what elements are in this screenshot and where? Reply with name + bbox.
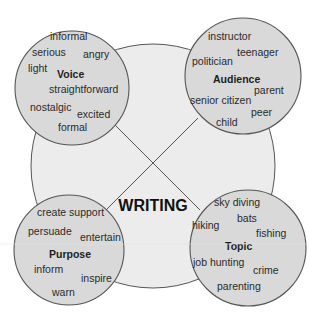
- node-voice: informal serious angry light Voice strai…: [15, 30, 129, 145]
- topic-word: hiking: [192, 219, 220, 231]
- node-purpose: create support persuade entertain Purpos…: [14, 195, 124, 305]
- center-title: WRITING: [118, 197, 187, 214]
- audience-word: teenager: [237, 46, 279, 58]
- writing-diagram: informal serious angry light Voice strai…: [0, 0, 309, 320]
- topic-word: fishing: [256, 227, 287, 239]
- audience-word: politician: [192, 55, 233, 67]
- voice-title: Voice: [57, 68, 84, 80]
- topic-word: job hunting: [192, 256, 245, 268]
- audience-word: child: [216, 116, 238, 128]
- voice-word: excited: [77, 108, 110, 120]
- audience-word: senior citizen: [190, 94, 251, 106]
- audience-word: instructor: [208, 30, 252, 42]
- topic-title: Topic: [225, 240, 252, 252]
- voice-word: straightforward: [49, 83, 119, 95]
- node-topic: sky diving bats hiking fishing Topic job…: [190, 190, 306, 306]
- purpose-title: Purpose: [49, 248, 91, 260]
- purpose-word: create support: [37, 206, 104, 218]
- node-audience: instructor teenager politician Audience …: [185, 18, 301, 134]
- topic-word: sky diving: [214, 196, 260, 208]
- topic-word: parenting: [217, 280, 261, 292]
- voice-word: nostalgic: [30, 101, 71, 113]
- purpose-word: warn: [51, 286, 75, 298]
- voice-word: serious: [32, 46, 66, 58]
- purpose-word: persuade: [28, 225, 72, 237]
- voice-word: angry: [83, 48, 110, 60]
- audience-word: parent: [254, 84, 284, 96]
- purpose-word: inform: [34, 263, 63, 275]
- voice-word: light: [28, 62, 47, 74]
- topic-word: bats: [237, 212, 257, 224]
- audience-word: peer: [251, 106, 273, 118]
- voice-word: informal: [50, 30, 87, 42]
- voice-word: formal: [58, 121, 87, 133]
- purpose-word: entertain: [80, 231, 121, 243]
- topic-word: crime: [253, 264, 279, 276]
- purpose-word: inspire: [81, 272, 112, 284]
